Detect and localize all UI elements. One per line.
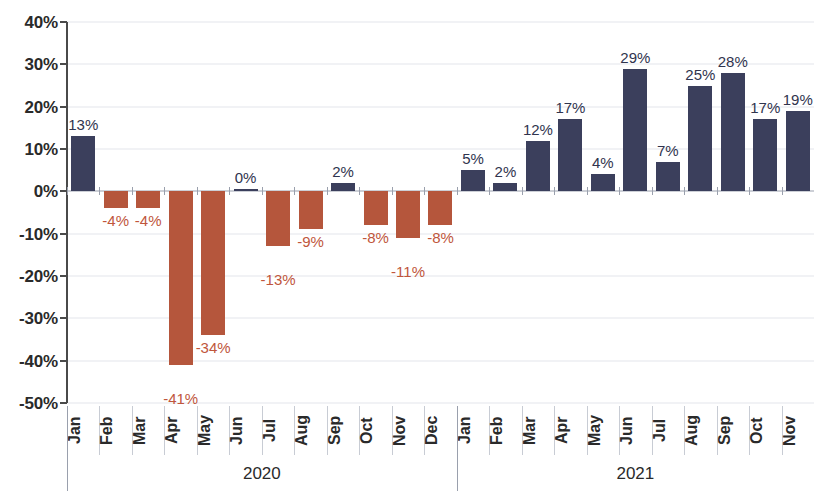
- x-axis-month-label: Mar: [522, 406, 554, 455]
- x-axis-tick-mark: [164, 187, 165, 195]
- x-axis-month-label: Feb: [489, 406, 521, 455]
- bar[interactable]: [656, 162, 680, 192]
- x-axis-month-label: Nov: [782, 406, 814, 455]
- bar[interactable]: [428, 191, 452, 225]
- bar-value-label: 25%: [685, 67, 715, 82]
- x-axis-month-label: May: [587, 406, 619, 455]
- x-axis-tick-mark: [717, 187, 718, 195]
- x-axis-month-label: Nov: [392, 406, 424, 455]
- bar-value-label: -41%: [163, 391, 198, 406]
- y-axis-tick-label: -50%: [0, 395, 58, 412]
- bar-value-label: 17%: [555, 100, 585, 115]
- bar[interactable]: [299, 191, 323, 229]
- x-axis-month-label: Mar: [132, 406, 164, 455]
- bar-value-label: -13%: [261, 272, 296, 287]
- bar[interactable]: [721, 73, 745, 192]
- x-axis-month-label: Jan: [67, 406, 99, 455]
- x-axis-month-label: Aug: [294, 406, 326, 455]
- x-axis-tick-mark: [67, 187, 68, 195]
- x-axis-tick-mark: [294, 187, 295, 195]
- y-axis-tick-label: 10%: [0, 141, 58, 158]
- bar[interactable]: [201, 191, 225, 335]
- bar-value-label: -9%: [297, 234, 324, 249]
- x-axis-month-label: Jul: [262, 406, 294, 455]
- x-axis-tick-mark: [262, 187, 263, 195]
- bar[interactable]: [364, 191, 388, 225]
- bar[interactable]: [493, 183, 517, 191]
- bar[interactable]: [786, 111, 810, 191]
- x-axis-tick-mark: [132, 187, 133, 195]
- x-axis-tick-mark: [489, 187, 490, 195]
- y-axis-tick-label: -10%: [0, 225, 58, 242]
- bar-value-label: 2%: [495, 164, 517, 179]
- bar[interactable]: [396, 191, 420, 238]
- y-axis-tick-label: -40%: [0, 352, 58, 369]
- bar[interactable]: [71, 136, 95, 191]
- bar-value-label: -8%: [362, 230, 389, 245]
- bar-chart: 40%30%20%10%0%-10%-20%-30%-40%-50% 13%-4…: [0, 0, 814, 491]
- x-axis-tick-mark: [392, 187, 393, 195]
- bar[interactable]: [558, 119, 582, 191]
- x-axis-tick-mark: [554, 187, 555, 195]
- bar[interactable]: [234, 189, 258, 191]
- x-axis-tick-mark: [749, 187, 750, 195]
- bar[interactable]: [331, 183, 355, 191]
- bar-value-label: 0%: [235, 170, 257, 185]
- y-axis-tick-label: -20%: [0, 268, 58, 285]
- x-axis-month-label: Apr: [554, 406, 586, 455]
- year-group-label: 2021: [457, 465, 814, 482]
- x-axis-month-label: Jun: [229, 406, 261, 455]
- bar[interactable]: [526, 141, 550, 192]
- x-axis-tick-mark: [587, 187, 588, 195]
- x-axis-month-label: Oct: [359, 406, 391, 455]
- x-axis-tick-mark: [652, 187, 653, 195]
- x-axis-month-label: Dec: [424, 406, 456, 455]
- x-axis-tick-mark: [684, 187, 685, 195]
- x-axis-tick-mark: [197, 187, 198, 195]
- y-axis-tick-label: 0%: [0, 183, 58, 200]
- bar-value-label: 28%: [718, 54, 748, 69]
- bar-value-label: 2%: [332, 164, 354, 179]
- bar[interactable]: [266, 191, 290, 246]
- bar-value-label: 19%: [783, 92, 813, 107]
- bar[interactable]: [623, 69, 647, 192]
- x-axis-month-label: Sep: [717, 406, 749, 455]
- x-axis-month-label: Apr: [164, 406, 196, 455]
- bar[interactable]: [136, 191, 160, 208]
- x-axis-tick-mark: [782, 187, 783, 195]
- y-axis-tick-label: 30%: [0, 56, 58, 73]
- bar[interactable]: [753, 119, 777, 191]
- x-axis-month-label: Sep: [327, 406, 359, 455]
- x-axis-tick-mark: [424, 187, 425, 195]
- y-axis-tick-label: -30%: [0, 310, 58, 327]
- x-axis-tick-mark: [359, 187, 360, 195]
- y-axis-tick-label: 20%: [0, 98, 58, 115]
- bar-value-label: 29%: [620, 50, 650, 65]
- x-axis-tick-mark: [522, 187, 523, 195]
- x-axis-month-label: May: [197, 406, 229, 455]
- bar-value-label: -11%: [391, 264, 425, 279]
- bar-value-label: -4%: [135, 213, 162, 228]
- x-axis-tick-mark: [229, 187, 230, 195]
- bar-value-label: 13%: [68, 117, 98, 132]
- x-axis-month-label: Jan: [457, 406, 489, 455]
- bar[interactable]: [591, 174, 615, 191]
- y-axis-tick-label: 40%: [0, 14, 58, 31]
- bar-value-label: 7%: [657, 143, 679, 158]
- bar[interactable]: [688, 86, 712, 192]
- bar-value-label: 5%: [462, 151, 484, 166]
- bar[interactable]: [461, 170, 485, 191]
- bar-value-label: -4%: [102, 213, 129, 228]
- x-axis-month-label: Jul: [652, 406, 684, 455]
- bar-value-label: -34%: [196, 340, 231, 355]
- x-axis-month-label: Feb: [99, 406, 131, 455]
- x-axis-tick-mark: [327, 187, 328, 195]
- bar-value-label: 12%: [523, 122, 553, 137]
- bar[interactable]: [104, 191, 128, 208]
- year-group-label: 2020: [67, 465, 457, 482]
- x-axis-tick-mark: [457, 187, 458, 195]
- x-axis-month-label: Jun: [619, 406, 651, 455]
- x-axis-tick-mark: [619, 187, 620, 195]
- bar[interactable]: [169, 191, 193, 365]
- x-axis-month-label: Oct: [749, 406, 781, 455]
